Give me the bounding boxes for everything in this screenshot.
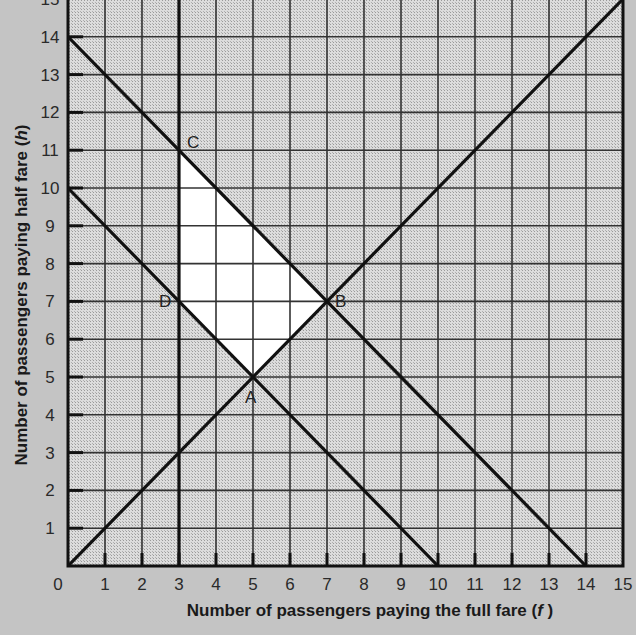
x-tick-label: 13 xyxy=(540,575,559,594)
x-tick-label: 11 xyxy=(466,575,484,594)
point-label-b: B xyxy=(335,292,346,311)
x-tick-label: 2 xyxy=(137,575,146,594)
y-tick-label: 13 xyxy=(41,66,60,85)
y-tick-label: 1 xyxy=(45,519,54,538)
y-tick-label: 4 xyxy=(45,406,54,425)
y-tick-label: 2 xyxy=(45,481,54,500)
point-label-a: A xyxy=(245,388,257,407)
y-tick-label: 5 xyxy=(45,368,54,387)
y-tick-label: 10 xyxy=(41,179,60,198)
y-tick-labels: 123456789101112131415 xyxy=(41,0,60,538)
x-tick-label: 4 xyxy=(211,575,220,594)
x-tick-label: 6 xyxy=(285,575,294,594)
x-tick-label: 14 xyxy=(577,575,596,594)
x-tick-labels: 0123456789101112131415 xyxy=(53,575,632,594)
x-tick-label: 9 xyxy=(396,575,405,594)
y-tick-label: 15 xyxy=(41,0,60,9)
x-tick-label: 7 xyxy=(322,575,331,594)
x-tick-label: 5 xyxy=(248,575,257,594)
x-tick-label: 1 xyxy=(100,575,109,594)
y-tick-label: 6 xyxy=(45,330,54,349)
x-tick-label: 0 xyxy=(53,575,62,594)
x-tick-label: 12 xyxy=(503,575,522,594)
x-tick-label: 3 xyxy=(174,575,183,594)
y-tick-label: 8 xyxy=(45,255,54,274)
x-tick-label: 10 xyxy=(429,575,448,594)
y-tick-label: 3 xyxy=(45,444,54,463)
point-label-d: D xyxy=(159,292,171,311)
x-tick-label: 8 xyxy=(359,575,368,594)
x-axis-title: Number of passengers paying the full far… xyxy=(187,601,554,620)
y-tick-label: 14 xyxy=(41,28,60,47)
x-tick-label: 15 xyxy=(614,575,633,594)
point-label-c: C xyxy=(187,133,199,152)
y-tick-label: 7 xyxy=(45,292,54,311)
y-tick-label: 11 xyxy=(41,141,59,160)
feasible-region-chart: 0123456789101112131415 12345678910111213… xyxy=(0,0,636,635)
y-tick-label: 12 xyxy=(41,103,60,122)
y-axis-title: Number of passengers paying half fare (h… xyxy=(12,124,31,465)
y-tick-label: 9 xyxy=(45,217,54,236)
